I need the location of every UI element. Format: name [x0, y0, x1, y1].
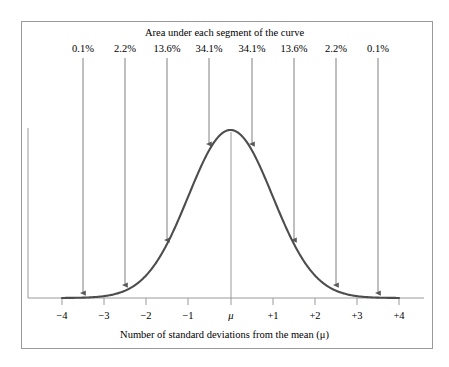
x-tick-label: μ — [228, 311, 233, 322]
axes-group — [28, 128, 424, 298]
x-tick-label: +1 — [267, 311, 278, 322]
normal-distribution-figure: Area under each segment of the curve 0.1… — [0, 0, 449, 367]
x-tick-label: +2 — [309, 311, 320, 322]
x-tick-label: −1 — [182, 311, 193, 322]
segment-percent-label: 34.1% — [238, 44, 265, 55]
chart-title: Area under each segment of the curve — [0, 28, 449, 39]
x-tick-label: +4 — [393, 311, 404, 322]
x-tick-label: −2 — [140, 311, 151, 322]
x-tick-label: −4 — [56, 311, 67, 322]
segment-percent-label: 13.6% — [280, 44, 307, 55]
segment-percent-label: 34.1% — [195, 44, 222, 55]
x-axis-title: Number of standard deviations from the m… — [0, 330, 449, 341]
x-tick-label: −3 — [98, 311, 109, 322]
x-axis-ticks — [62, 298, 399, 305]
segment-percent-label: 2.2% — [325, 44, 347, 55]
x-tick-label: +3 — [351, 311, 362, 322]
segment-percent-label: 2.2% — [114, 44, 136, 55]
segment-percent-label: 13.6% — [153, 44, 180, 55]
segment-percent-label: 0.1% — [72, 44, 94, 55]
segment-percent-label: 0.1% — [367, 44, 389, 55]
